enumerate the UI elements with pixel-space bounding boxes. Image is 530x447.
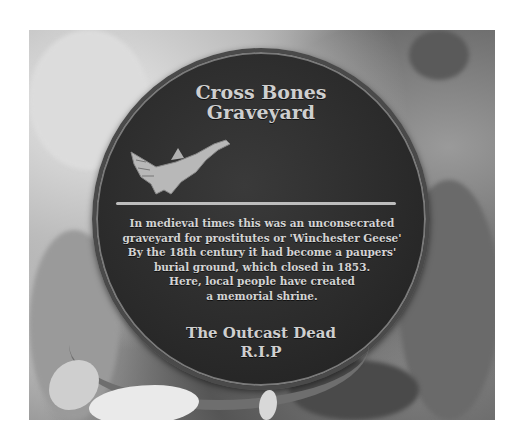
inscription-line: In medieval times this was an unconsecra… <box>114 216 410 231</box>
plaque-title-line: Cross Bones <box>96 82 426 102</box>
plaque-title: Cross Bones Graveyard <box>96 82 426 122</box>
inscription-line: graveyard for prostitutes or 'Winchester… <box>114 231 410 246</box>
inscription-line: burial ground, which closed in 1853. <box>114 260 410 275</box>
plaque-divider <box>116 202 396 205</box>
goose-icon <box>126 132 236 202</box>
plaque-title-line: Graveyard <box>96 102 426 122</box>
foliage-top-right <box>409 30 469 80</box>
inscription-line: By the 18th century it had become a paup… <box>114 245 410 260</box>
memorial-photo: Cross Bones Graveyard In medieval times … <box>29 30 495 420</box>
ribbon-knot <box>259 390 277 420</box>
